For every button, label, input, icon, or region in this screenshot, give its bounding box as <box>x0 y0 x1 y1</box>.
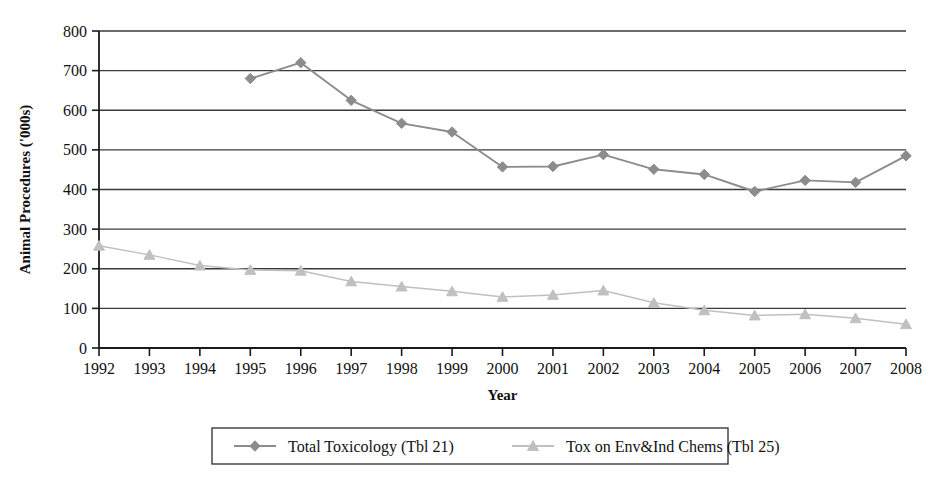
x-tick-label: 2000 <box>487 360 519 377</box>
y-tick-label: 500 <box>63 141 87 158</box>
series-1 <box>245 58 911 197</box>
triangle-marker-icon <box>94 241 105 251</box>
y-axis-title: Animal Procedures ('000s) <box>17 105 34 274</box>
x-tick-label: 2003 <box>638 360 670 377</box>
diamond-marker-icon <box>245 73 255 83</box>
y-tick-label: 300 <box>63 221 87 238</box>
x-axis-ticks: 1992199319941995199619971998199920002001… <box>83 348 922 377</box>
diamond-marker-icon <box>598 149 608 159</box>
diamond-marker-icon <box>396 118 406 128</box>
x-tick-label: 1993 <box>133 360 165 377</box>
y-tick-label: 100 <box>63 300 87 317</box>
y-tick-label: 700 <box>63 62 87 79</box>
x-tick-label: 2006 <box>789 360 821 377</box>
x-tick-label: 2002 <box>587 360 619 377</box>
x-tick-label: 1998 <box>386 360 418 377</box>
y-tick-label: 200 <box>63 260 87 277</box>
diamond-marker-icon <box>901 151 911 161</box>
legend-label: Total Toxicology (Tbl 21) <box>288 438 454 456</box>
line-chart: 0100200300400500600700800199219931994199… <box>0 0 939 491</box>
diamond-marker-icon <box>749 186 759 196</box>
diamond-marker-icon <box>699 169 709 179</box>
legend-entry-2[interactable]: Tox on Env&Ind Chems (Tbl 25) <box>512 438 780 456</box>
legend: Total Toxicology (Tbl 21)Tox on Env&Ind … <box>212 428 780 464</box>
x-tick-label: 1999 <box>436 360 468 377</box>
x-tick-label: 2008 <box>890 360 922 377</box>
diamond-marker-icon <box>250 441 260 451</box>
diamond-marker-icon <box>850 177 860 187</box>
x-tick-label: 2001 <box>537 360 569 377</box>
x-tick-label: 1997 <box>335 360 367 377</box>
y-tick-label: 400 <box>63 181 87 198</box>
x-tick-label: 1996 <box>285 360 317 377</box>
diamond-marker-icon <box>548 161 558 171</box>
series-2 <box>94 241 912 329</box>
x-tick-label: 1992 <box>83 360 115 377</box>
x-axis-title: Year <box>488 387 518 403</box>
x-tick-label: 2005 <box>739 360 771 377</box>
legend-entry-1[interactable]: Total Toxicology (Tbl 21) <box>234 438 454 456</box>
legend-label: Tox on Env&Ind Chems (Tbl 25) <box>566 438 780 456</box>
x-tick-label: 2004 <box>688 360 720 377</box>
y-tick-label: 0 <box>79 340 87 357</box>
x-tick-label: 1994 <box>184 360 216 377</box>
series-line <box>250 63 906 192</box>
diamond-marker-icon <box>800 175 810 185</box>
diamond-marker-icon <box>649 164 659 174</box>
x-tick-label: 2007 <box>840 360 872 377</box>
series-line <box>99 246 906 324</box>
gridlines: 0100200300400500600700800 <box>63 23 906 357</box>
chart-figure: 0100200300400500600700800199219931994199… <box>0 0 939 491</box>
x-tick-label: 1995 <box>234 360 266 377</box>
y-tick-label: 800 <box>63 23 87 40</box>
y-tick-label: 600 <box>63 102 87 119</box>
